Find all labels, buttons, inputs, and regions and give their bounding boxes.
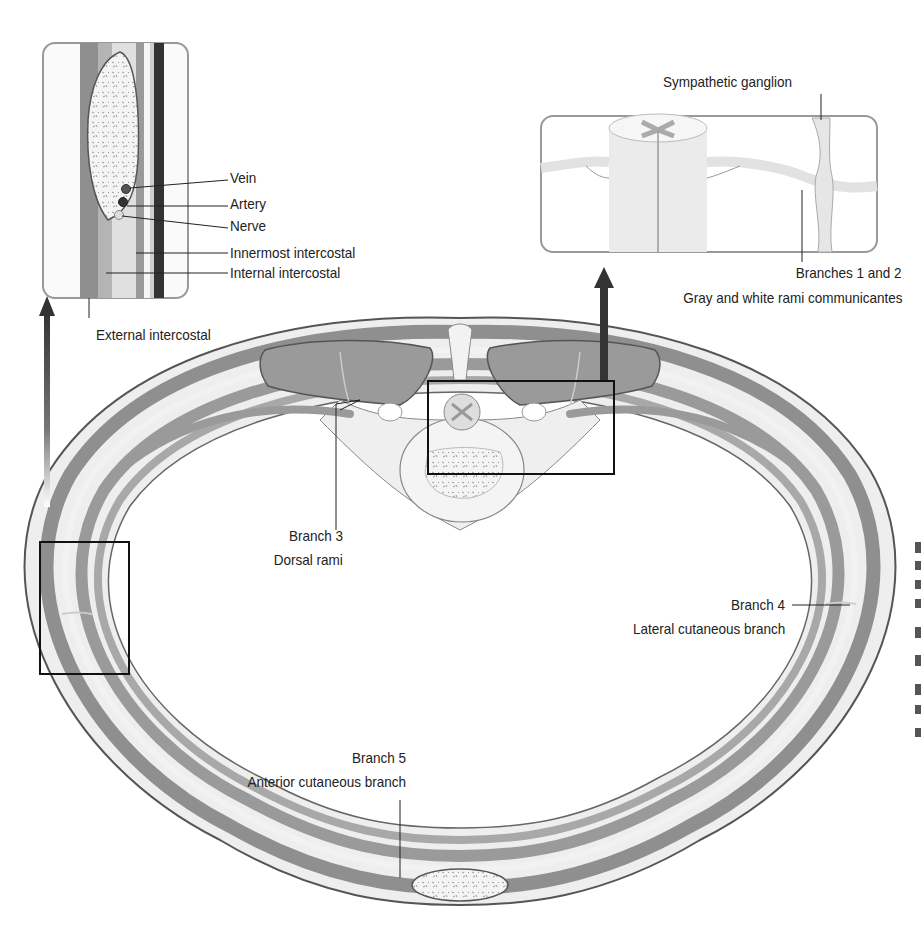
nerve-icon: [115, 211, 124, 220]
thorax-diagram: [0, 0, 921, 934]
artery-icon: [119, 198, 128, 207]
label-dorsal-rami: Dorsal rami: [274, 551, 343, 569]
label-branch3: Branch 3: [289, 527, 343, 545]
label-branch4: Branch 4: [731, 596, 785, 614]
inset-intercostal-space: [43, 43, 228, 318]
label-nerve: Nerve: [230, 217, 266, 235]
label-vein: Vein: [230, 169, 256, 187]
label-artery: Artery: [230, 195, 266, 213]
label-innermost-intercostal: Innermost intercostal: [230, 244, 355, 262]
label-anterior-cutaneous: Anterior cutaneous branch: [248, 773, 406, 791]
vein-icon: [122, 185, 131, 194]
label-branches-1-2: Branches 1 and 2: [796, 264, 902, 282]
label-lateral-cutaneous: Lateral cutaneous branch: [633, 620, 785, 638]
label-rami-communicantes: Gray and white rami communicantes: [683, 289, 902, 307]
label-sympathetic-ganglion: Sympathetic ganglion: [663, 73, 792, 91]
label-internal-intercostal: Internal intercostal: [230, 264, 340, 282]
clipped-edge-marks: [915, 542, 921, 737]
sternum: [412, 869, 508, 901]
label-external-intercostal: External intercostal: [96, 326, 211, 344]
label-branch5: Branch 5: [352, 749, 406, 767]
inset-spinal-cord: [541, 94, 877, 262]
